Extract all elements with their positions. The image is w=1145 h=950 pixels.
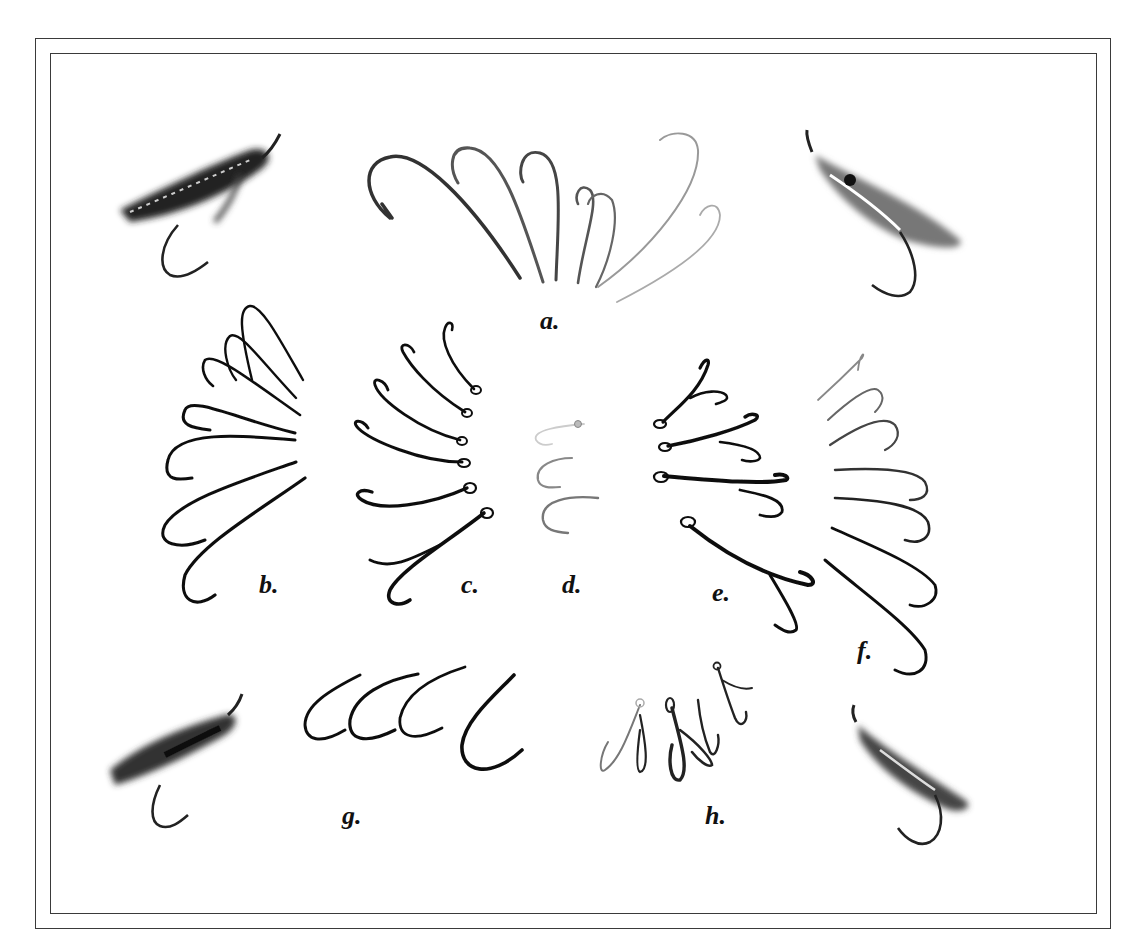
- salmon-fly-top-left: [120, 134, 280, 276]
- label-a: a.: [540, 308, 560, 334]
- salmon-fly-bottom-left: [110, 694, 242, 827]
- salmon-fly-bottom-right: [853, 705, 969, 844]
- salmon-fly-top-right: [807, 130, 961, 296]
- label-h: h.: [705, 803, 726, 829]
- hook-group-b: [163, 306, 305, 602]
- hook-group-h: [601, 663, 752, 781]
- label-d: d.: [562, 572, 582, 598]
- label-c: c.: [461, 572, 479, 598]
- hook-group-a: [369, 133, 720, 302]
- label-g: g.: [342, 803, 362, 829]
- label-f: f.: [857, 638, 872, 664]
- hook-group-c: [355, 323, 493, 604]
- hook-group-f: [818, 354, 936, 674]
- hook-plate-illustration: [0, 0, 1145, 950]
- label-e: e.: [712, 580, 730, 606]
- hook-group-e: [654, 360, 813, 632]
- label-b: b.: [259, 572, 279, 598]
- hook-group-g: [305, 667, 522, 769]
- hook-group-d: [536, 421, 598, 534]
